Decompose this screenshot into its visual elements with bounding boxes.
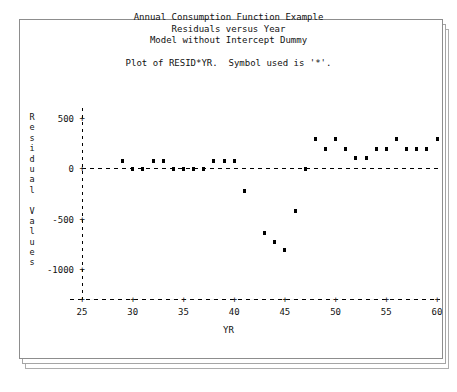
title-line-1: Annual Consumption Function Example	[0, 12, 457, 24]
subtitle-text: Plot of RESID*YR. Symbol used is '*'.	[0, 58, 457, 70]
plot-subtitle: Plot of RESID*YR. Symbol used is '*'.	[0, 58, 457, 70]
plot-title-block: Annual Consumption Function Example Resi…	[0, 12, 457, 47]
title-line-2: Residuals versus Year	[0, 24, 457, 36]
output-sheet	[19, 19, 443, 359]
title-line-3: Model without Intercept Dummy	[0, 35, 457, 47]
